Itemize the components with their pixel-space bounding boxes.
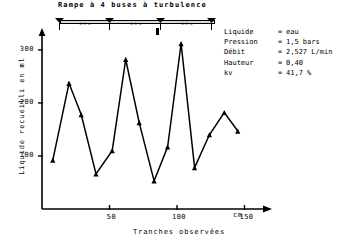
x-tick-label: 50 [101, 213, 123, 221]
data-point-markers [50, 41, 240, 184]
data-point-marker [123, 57, 128, 62]
data-point-marker [79, 112, 84, 117]
plot-area [0, 0, 353, 244]
data-point-marker [178, 41, 183, 46]
data-point-marker [66, 81, 71, 86]
x-axis-title: Tranches observées [133, 228, 225, 236]
x-axis-unit: cm [233, 211, 242, 219]
data-point-marker [137, 120, 142, 125]
x-axis-arrow [263, 205, 272, 212]
data-point-marker [165, 144, 170, 149]
data-series-line [53, 44, 238, 181]
y-axis-title: Liquide recueilli en ml [18, 46, 26, 186]
data-point-marker [222, 110, 227, 115]
data-point-marker [151, 178, 156, 183]
y-axis-arrow [39, 28, 46, 36]
x-tick-label: 100 [168, 213, 190, 221]
data-point-marker [192, 165, 197, 170]
data-point-marker [50, 158, 55, 163]
chart-figure: Rampe à 4 buses à turbulence 0.5 m 0.5 m… [0, 0, 353, 244]
data-point-marker [110, 148, 115, 153]
